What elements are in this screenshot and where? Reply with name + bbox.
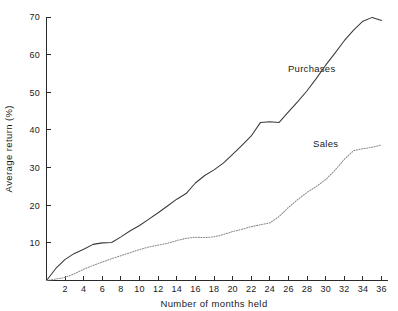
x-tick-label: 4 — [81, 284, 86, 294]
x-tick-label: 30 — [320, 284, 330, 294]
series-label-sales: Sales — [313, 138, 338, 149]
y-tick-label: 60 — [30, 50, 40, 60]
y-axis-title: Average return (%) — [3, 105, 14, 192]
y-tick-label: 20 — [30, 201, 40, 211]
y-tick-label: 10 — [30, 238, 40, 248]
series-annotations: PurchasesSales — [288, 63, 338, 149]
data-series-group — [47, 17, 382, 280]
series-label-purchases: Purchases — [288, 63, 336, 74]
y-axis: 10203040506070 — [30, 12, 51, 280]
x-tick-label: 20 — [227, 284, 237, 294]
x-tick-label: 12 — [153, 284, 163, 294]
x-tick-label: 10 — [134, 284, 144, 294]
axis-titles: Number of months heldAverage return (%) — [3, 105, 268, 308]
x-tick-label: 36 — [376, 284, 386, 294]
x-axis: 24681012141618202224262830323436 — [47, 276, 388, 294]
line-chart: 10203040506070 2468101214161820222426283… — [0, 0, 398, 311]
y-tick-label: 30 — [30, 163, 40, 173]
x-tick-label: 2 — [63, 284, 68, 294]
x-tick-label: 26 — [283, 284, 293, 294]
x-tick-label: 32 — [339, 284, 349, 294]
x-tick-label: 6 — [100, 284, 105, 294]
x-tick-label: 8 — [118, 284, 123, 294]
x-tick-label: 24 — [265, 284, 275, 294]
x-tick-label: 28 — [302, 284, 312, 294]
chart-figure: 10203040506070 2468101214161820222426283… — [0, 0, 398, 311]
y-tick-label: 40 — [30, 125, 40, 135]
x-tick-label: 18 — [209, 284, 219, 294]
y-tick-label: 50 — [30, 88, 40, 98]
x-axis-title: Number of months held — [160, 298, 267, 309]
y-tick-label: 70 — [30, 12, 40, 22]
x-tick-label: 14 — [172, 284, 182, 294]
x-tick-label: 16 — [190, 284, 200, 294]
series-line-sales — [47, 145, 382, 281]
x-tick-label: 22 — [246, 284, 256, 294]
x-tick-label: 34 — [358, 284, 368, 294]
series-line-purchases — [47, 17, 382, 280]
